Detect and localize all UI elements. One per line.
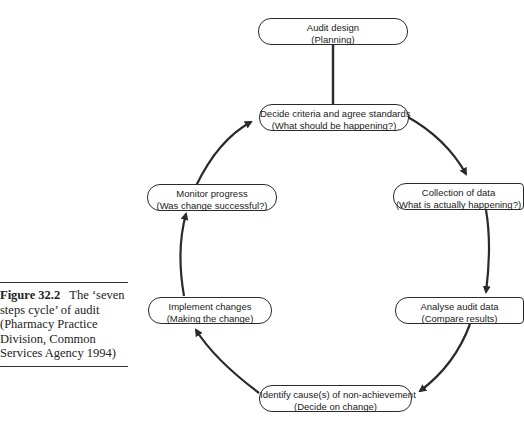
node-subtitle: (Planning): [259, 34, 407, 46]
arrow-identify-to-implement: [196, 330, 259, 393]
cycle-arrows: [0, 0, 524, 432]
node-title: Decide criteria and agree standards: [260, 108, 408, 120]
node-title: Monitor progress: [148, 188, 276, 200]
node-title: Audit design: [259, 22, 407, 34]
node-audit-design: Audit design (Planning): [258, 18, 408, 45]
node-title: Analyse audit data: [396, 301, 523, 313]
node-subtitle: (What is actually happening?): [394, 199, 523, 211]
arrow-collection-to-analyse: [486, 210, 489, 292]
node-decide-criteria: Decide criteria and agree standards (Wha…: [259, 104, 409, 131]
caption-label: Figure 32.2: [0, 288, 60, 302]
node-title: Identify cause(s) of non-achievement: [260, 389, 411, 401]
node-identify: Identify cause(s) of non-achievement (De…: [259, 385, 412, 412]
node-subtitle: (Making the change): [149, 313, 271, 325]
arrow-implement-to-monitor: [180, 214, 186, 296]
arrow-analyse-to-identify: [420, 324, 470, 391]
arrow-monitor-to-criteria: [196, 122, 251, 186]
figure-caption: Figure 32.2 The ‘seven steps cycle’ of a…: [0, 282, 128, 367]
node-title: Collection of data: [394, 187, 523, 199]
caption-bottom-rule: [0, 366, 128, 367]
node-monitor: Monitor progress (Was change successful?…: [147, 184, 277, 211]
node-subtitle: (Was change successful?): [148, 200, 276, 212]
arrow-criteria-to-collection: [406, 116, 466, 174]
node-collection: Collection of data (What is actually hap…: [393, 183, 524, 210]
node-subtitle: (Compare results): [396, 313, 523, 325]
node-analyse: Analyse audit data (Compare results): [395, 297, 524, 324]
node-subtitle: (What should be happening?): [260, 120, 408, 132]
node-implement: Implement changes (Making the change): [148, 297, 272, 324]
node-title: Implement changes: [149, 301, 271, 313]
node-subtitle: (Decide on change): [260, 401, 411, 413]
